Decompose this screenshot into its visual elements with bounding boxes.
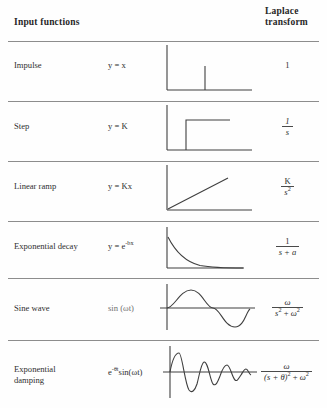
row-transform-impulse: 1: [248, 60, 327, 70]
row-label-step: Step: [14, 121, 29, 132]
header-laplace-line1: Laplace: [265, 6, 308, 17]
row-label-linear-ramp: Linear ramp: [14, 181, 56, 192]
denominator-exponent-2: 2: [288, 185, 291, 192]
function-base-exponential-decay: y = e: [108, 241, 125, 251]
header-laplace-line2: transform: [265, 17, 308, 28]
function-exponent-exponential-decay: -bx: [125, 239, 133, 246]
denominator-omega-exponent-2: 2: [306, 370, 309, 377]
fraction-denominator-exponential-damping: (s + θ)2 + ω2: [261, 371, 312, 382]
row-function-exponential-damping: e-θtsin(ωt): [108, 367, 142, 377]
function-exponent-theta-t: -θt: [112, 365, 119, 372]
header-laplace-transform: Laplace transform: [265, 6, 308, 28]
fraction-numerator-step: 1: [282, 117, 292, 126]
graph-impulse-spike: [160, 44, 260, 100]
fraction-denominator-step: s: [282, 126, 292, 137]
row-function-linear-ramp: y = Kx: [108, 181, 132, 191]
row-label-exponential-decay: Exponential decay: [14, 241, 78, 252]
row-label-impulse: Impulse: [14, 60, 42, 71]
denominator-plus-2: +: [291, 372, 300, 382]
row-label-exponential-damping-line1: Exponential: [14, 364, 56, 375]
row-label-sine-wave: Sine wave: [14, 303, 50, 314]
row-function-step: y = K: [108, 121, 128, 131]
fraction-denominator-exponential-decay: s + a: [276, 246, 300, 257]
transform-value-impulse: 1: [285, 60, 289, 70]
graph-linear-ramp: [160, 164, 260, 220]
row-transform-sine-wave: ω s2 + ω2: [248, 298, 327, 318]
divider-after-sine-wave: [8, 340, 319, 341]
row-transform-linear-ramp: K s2: [248, 177, 327, 197]
fraction-denominator-sine-wave: s2 + ω2: [272, 307, 303, 318]
row-function-sine-wave: sin (ωt): [108, 303, 134, 313]
row-label-exponential-damping: Exponential damping: [14, 364, 56, 385]
divider-after-step: [8, 161, 319, 162]
row-transform-exponential-damping: ω (s + θ)2 + ω2: [246, 362, 327, 382]
divider-after-exponential-decay: [8, 278, 319, 279]
divider-top: [8, 41, 319, 42]
laplace-transform-table: Input functions Laplace transform Impuls…: [0, 0, 327, 408]
fraction-sine-wave: ω s2 + ω2: [272, 298, 303, 318]
graph-exponential-decay: [160, 226, 260, 278]
fraction-denominator-linear-ramp: s2: [281, 186, 293, 197]
function-sine-part: sin(ωt): [119, 367, 143, 377]
row-function-exponential-decay: y = e-bx: [108, 241, 134, 251]
fraction-exponential-decay: 1 s + a: [276, 237, 300, 257]
fraction-numerator-exponential-decay: 1: [276, 237, 300, 246]
divider-after-impulse: [8, 101, 319, 102]
row-function-impulse: y = x: [108, 60, 126, 70]
fraction-linear-ramp: K s2: [281, 177, 293, 197]
denominator-omega-exponent: 2: [297, 306, 300, 313]
denominator-group-s-theta: (s + θ): [264, 372, 287, 382]
graph-unit-step: [160, 104, 260, 160]
header-input-functions: Input functions: [14, 17, 80, 27]
row-transform-step: 1 s: [248, 117, 327, 137]
divider-after-linear-ramp: [8, 221, 319, 222]
row-transform-exponential-decay: 1 s + a: [248, 237, 327, 257]
row-label-exponential-damping-line2: damping: [14, 375, 56, 386]
fraction-step: 1 s: [282, 117, 292, 137]
denominator-plus: +: [282, 308, 291, 318]
fraction-exponential-damping: ω (s + θ)2 + ω2: [261, 362, 312, 382]
